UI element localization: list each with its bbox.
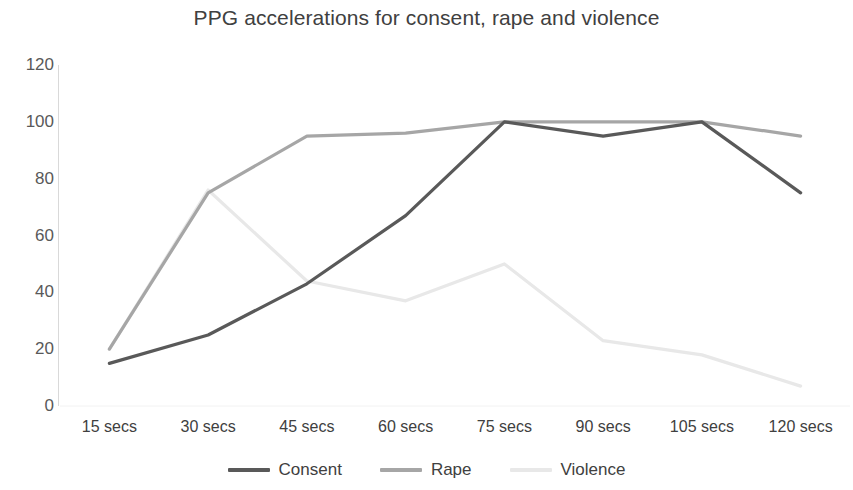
x-axis-tick-label: 120 secs [769,418,833,436]
series-line-consent [109,122,800,364]
chart-legend: ConsentRapeViolence [0,460,853,480]
x-axis-tick-label: 30 secs [181,418,236,436]
x-axis-tick-label: 45 secs [279,418,334,436]
chart-title: PPG accelerations for consent, rape and … [0,6,853,30]
legend-label: Rape [431,460,472,480]
legend-label: Violence [561,460,626,480]
legend-item-violence[interactable]: Violence [510,460,626,480]
x-axis-tick-label: 105 secs [670,418,734,436]
legend-item-consent[interactable]: Consent [228,460,342,480]
x-axis-tick-label: 75 secs [477,418,532,436]
legend-label: Consent [279,460,342,480]
y-axis-tick-label: 60 [0,226,54,246]
y-axis-tick-label: 120 [0,55,54,75]
x-axis-tick-label: 60 secs [378,418,433,436]
legend-swatch-icon [510,468,552,472]
series-line-violence [109,190,800,386]
y-axis-tick-label: 20 [0,339,54,359]
y-axis-tick-label: 100 [0,112,54,132]
series-line-rape [109,122,800,349]
chart-container: PPG accelerations for consent, rape and … [0,0,853,490]
y-axis-line [58,65,59,406]
x-axis-tick-label: 15 secs [82,418,137,436]
y-axis-tick-label: 40 [0,282,54,302]
y-axis: 020406080100120 [0,65,54,406]
legend-item-rape[interactable]: Rape [380,460,472,480]
plot-area [60,65,850,406]
x-axis: 15 secs30 secs45 secs60 secs75 secs90 se… [60,418,850,446]
chart-plot [60,65,850,406]
x-axis-tick-label: 90 secs [576,418,631,436]
y-axis-tick-label: 0 [0,396,54,416]
legend-swatch-icon [228,468,270,472]
y-axis-tick-label: 80 [0,169,54,189]
legend-swatch-icon [380,468,422,472]
